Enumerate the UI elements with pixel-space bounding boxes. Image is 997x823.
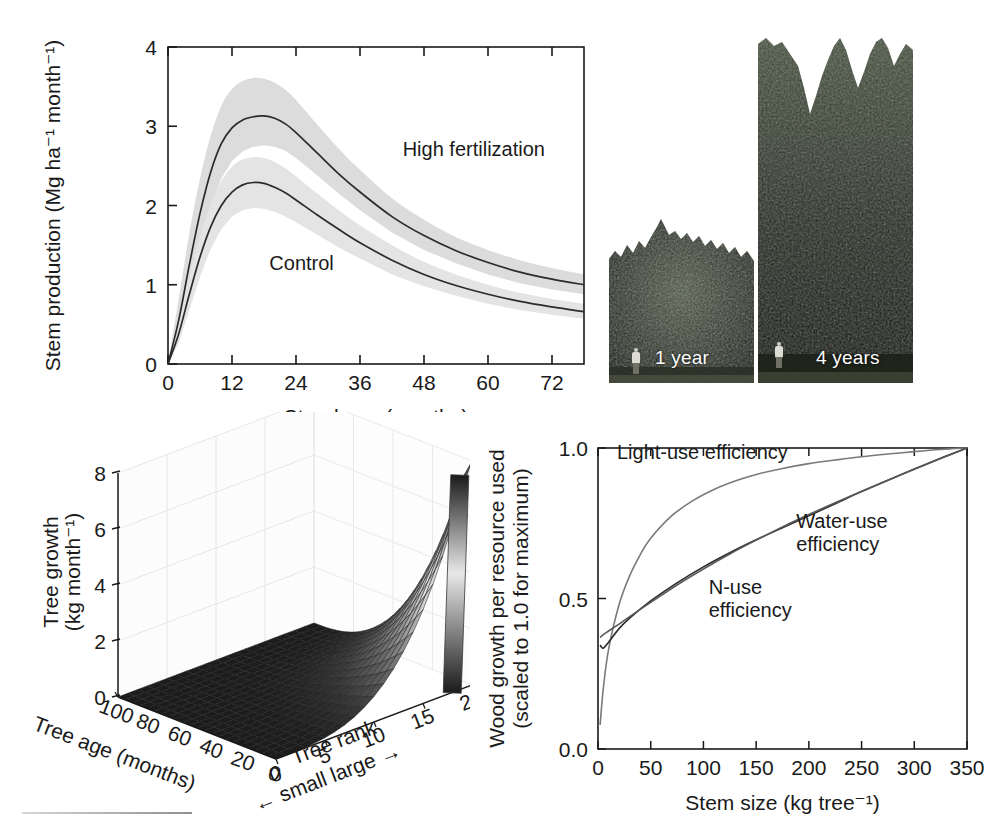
x-tick-label: 50 (639, 756, 662, 779)
z-tick-label: 2 (94, 630, 106, 653)
x-tick-label: 100 (686, 756, 721, 779)
series-label-n-use-efficiency: N-useefficiency (709, 576, 792, 621)
x-tick-label: 0 (592, 756, 604, 779)
x-tick-label: 150 (739, 756, 774, 779)
series-label-control: Control (269, 252, 333, 274)
photo-stand-1-year: 1 year (609, 215, 754, 383)
x-axis-title: Stand age (months) (284, 405, 468, 412)
x-tick-label: 200 (791, 756, 826, 779)
x-tick-label: 36 (348, 371, 371, 394)
series-label-light-use-efficiency: Light-use efficiency (617, 441, 788, 463)
stem-production-panel: 012340122436486072High fertilizationCont… (0, 0, 600, 412)
y-tick-label: 0 (145, 353, 157, 376)
x-tick-label: 250 (844, 756, 879, 779)
y-axis-title: Stem production (Mg ha⁻¹ month⁻¹) (41, 40, 64, 371)
y-tick-label: 4 (145, 36, 157, 59)
y-tick-label: 2 (145, 195, 157, 218)
y-tick-label: 1 (145, 274, 157, 297)
x-tick-label: 300 (897, 756, 932, 779)
x-tick-label: 48 (412, 371, 435, 394)
photo-caption-4-years: 4 years (816, 347, 880, 369)
x-tick-label: 350 (949, 756, 984, 779)
series-label-water-use-efficiency: Water-useefficiency (796, 510, 888, 555)
x-tick-label: 24 (284, 371, 308, 394)
tree-growth-surface-panel: 0246810080604020005101520Tree growth(kg … (0, 412, 470, 823)
photo-caption-1-year: 1 year (655, 347, 709, 369)
y-axis-title-line1: Wood growth per resource used (485, 449, 508, 747)
y-tick-label: 0.5 (559, 588, 588, 611)
resource-use-efficiency-panel: 0.00.51.0050100150200250300350Light-use … (462, 412, 997, 823)
z-tick-label: 8 (94, 462, 106, 485)
stem-production-chart: 012340122436486072High fertilizationCont… (0, 0, 600, 412)
x-tick-label: 12 (220, 371, 243, 394)
z-axis-title-units: (kg month⁻¹) (61, 513, 84, 631)
y-tick-label: 3 (145, 115, 157, 138)
uncertainty-band-high-fertilization (168, 78, 584, 364)
person-silhouette-icon (631, 348, 641, 375)
photo-stand-4-years: 4 years (758, 36, 913, 383)
z-tick-label: 6 (94, 518, 106, 541)
x-tick-label: 60 (476, 371, 499, 394)
y-tick-label: 0.0 (559, 738, 588, 761)
y-tick-label: 1.0 (559, 437, 588, 460)
series-label-high-fertilization: High fertilization (403, 138, 545, 160)
z-tick-label: 4 (94, 574, 106, 597)
page-scan-rule (22, 812, 192, 814)
resource-use-efficiency-chart: 0.00.51.0050100150200250300350Light-use … (462, 412, 997, 823)
canopy-texture-4-years (758, 36, 913, 383)
stand-photographs-panel: 1 year 4 years (598, 0, 997, 412)
curve-light-use-efficiency (600, 448, 967, 725)
x-tick-label: 72 (540, 371, 563, 394)
x-tick-label: 0 (162, 371, 174, 394)
tree-growth-surface-chart: 0246810080604020005101520Tree growth(kg … (0, 412, 470, 823)
x-axis-title: Stem size (kg tree⁻¹) (685, 791, 879, 814)
z-axis-title: Tree growth (39, 516, 62, 627)
y-axis-title-line2: (scaled to 1.0 for maximum) (509, 468, 532, 728)
person-silhouette-icon (774, 342, 784, 373)
